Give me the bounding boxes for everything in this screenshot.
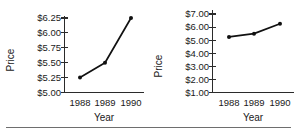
line-chart-full-scale: $1.00$2.00$3.00$4.00$5.00$6.00$7.00 1988… bbox=[148, 0, 297, 124]
bottom-divider bbox=[6, 127, 291, 128]
y-tick-label: $3.00 bbox=[185, 61, 209, 72]
data-point bbox=[78, 76, 82, 80]
y-axis-title-right: Price bbox=[153, 54, 164, 77]
y-tick-label: $5.00 bbox=[37, 87, 61, 98]
y-tick-labels-right: $1.00$2.00$3.00$4.00$5.00$6.00$7.00 bbox=[185, 8, 209, 98]
two-chart-figure: $5.00$5.25$5.50$5.75$6.00$6.25 198819891… bbox=[0, 0, 297, 131]
x-tick-labels-right: 198819891990 bbox=[218, 97, 290, 108]
x-tick-label: 1988 bbox=[218, 97, 239, 108]
y-tick-label: $2.00 bbox=[185, 74, 209, 85]
y-tick-label: $5.50 bbox=[37, 57, 61, 68]
data-point bbox=[227, 35, 231, 39]
data-series-right bbox=[227, 22, 282, 39]
y-axis-title-left: Price bbox=[5, 48, 16, 71]
chart-right-axes bbox=[213, 10, 295, 93]
y-tick-label: $6.00 bbox=[37, 27, 61, 38]
y-tick-label: $4.00 bbox=[185, 48, 209, 59]
y-tick-label: $5.25 bbox=[37, 72, 61, 83]
axis-lines bbox=[213, 10, 295, 93]
data-point bbox=[129, 16, 133, 20]
y-tick-label: $5.75 bbox=[37, 42, 61, 53]
x-tick-label: 1990 bbox=[269, 97, 290, 108]
y-tick-labels-left: $5.00$5.25$5.50$5.75$6.00$6.25 bbox=[37, 12, 61, 98]
data-point bbox=[103, 61, 107, 65]
y-tick-label: $1.00 bbox=[185, 87, 209, 98]
x-axis-title-right: Year bbox=[243, 112, 264, 123]
x-axis-title-left: Year bbox=[94, 112, 115, 123]
x-tick-label: 1989 bbox=[94, 97, 115, 108]
x-tick-label: 1989 bbox=[243, 97, 264, 108]
x-tick-labels-left: 198819891990 bbox=[69, 97, 141, 108]
chart-left-canvas: $5.00$5.25$5.50$5.75$6.00$6.25 198819891… bbox=[0, 0, 149, 124]
data-line bbox=[80, 18, 131, 78]
chart-left-axes bbox=[65, 16, 145, 93]
data-series-left bbox=[78, 16, 133, 80]
y-tick-label: $7.00 bbox=[185, 8, 209, 19]
line-chart-zoomed-scale: $5.00$5.25$5.50$5.75$6.00$6.25 198819891… bbox=[0, 0, 149, 124]
x-tick-label: 1990 bbox=[120, 97, 141, 108]
y-tick-label: $5.00 bbox=[185, 35, 209, 46]
chart-right-canvas: $1.00$2.00$3.00$4.00$5.00$6.00$7.00 1988… bbox=[148, 0, 297, 124]
y-tick-label: $6.00 bbox=[185, 21, 209, 32]
data-point bbox=[278, 22, 282, 26]
axis-lines bbox=[65, 16, 145, 93]
data-point bbox=[252, 32, 256, 36]
x-tick-label: 1988 bbox=[69, 97, 90, 108]
y-tick-label: $6.25 bbox=[37, 12, 61, 23]
